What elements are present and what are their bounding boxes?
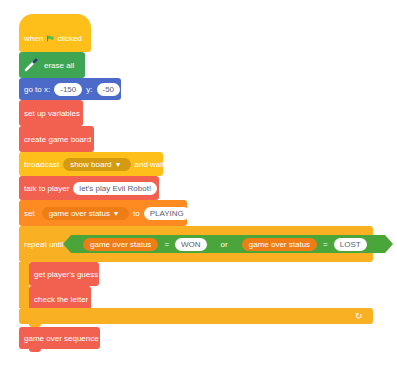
when-label: when [24, 34, 43, 43]
create-game-board-label: create game board [24, 135, 91, 144]
or-operator-block[interactable]: game over status = WON or game over stat… [63, 235, 393, 253]
set-up-variables-label: set up variables [24, 109, 80, 118]
green-flag-icon [47, 34, 53, 43]
chevron-down-icon: ▾ [116, 160, 120, 169]
loop-arrow-icon: ↻ [355, 311, 363, 321]
game-over-status-reporter-left[interactable]: game over status [83, 238, 158, 251]
set-variable-block[interactable]: set game over status▾ to PLAYING [19, 200, 187, 226]
game-over-sequence-label: game over sequence [24, 334, 99, 343]
to-label: to [133, 209, 140, 218]
equals-sign-right: = [323, 240, 328, 249]
repeat-until-arm [19, 262, 29, 308]
talk-to-player-input[interactable]: let's play Evil Robot! [73, 182, 157, 195]
pen-icon [24, 58, 38, 72]
won-input[interactable]: WON [175, 238, 207, 251]
broadcast-label: broadcast [24, 160, 59, 169]
variable-dropdown[interactable]: game over status▾ [42, 207, 129, 220]
set-value-input[interactable]: PLAYING [144, 207, 190, 220]
game-over-status-reporter-right[interactable]: game over status [242, 238, 317, 251]
repeat-until-block[interactable]: repeat until game over status = WON or g… [19, 226, 373, 324]
talk-to-player-label: talk to player [24, 184, 69, 193]
go-to-xy-block[interactable]: go to x: -150 y: -50 [19, 78, 121, 100]
erase-all-block[interactable]: erase all [19, 52, 85, 78]
set-up-variables-block[interactable]: set up variables [19, 100, 83, 126]
equals-operator-left[interactable]: game over status = WON [75, 236, 215, 252]
broadcast-message-value: show board [70, 160, 111, 169]
erase-all-label: erase all [44, 61, 74, 70]
get-players-guess-block[interactable]: get player's guess [29, 262, 99, 286]
lost-input[interactable]: LOST [334, 238, 367, 251]
equals-sign-left: = [164, 240, 169, 249]
when-flag-clicked-block[interactable]: when clicked [19, 14, 91, 52]
set-label: set [24, 209, 35, 218]
variable-name: game over status [49, 209, 110, 218]
create-game-board-block[interactable]: create game board [19, 126, 94, 152]
equals-operator-right[interactable]: game over status = LOST [234, 236, 375, 252]
repeat-until-label: repeat until [24, 240, 64, 249]
talk-to-player-block[interactable]: talk to player let's play Evil Robot! [19, 176, 159, 200]
broadcast-and-wait-block[interactable]: broadcast show board▾ and wait [19, 152, 163, 176]
or-label: or [221, 240, 228, 249]
y-input[interactable]: -50 [97, 83, 121, 96]
and-wait-label: and wait [135, 160, 165, 169]
game-over-sequence-block[interactable]: game over sequence [19, 327, 100, 349]
repeat-until-footer: ↻ [19, 308, 373, 324]
broadcast-message-dropdown[interactable]: show board▾ [63, 158, 130, 171]
x-input[interactable]: -150 [54, 83, 82, 96]
clicked-label: clicked [58, 34, 82, 43]
get-players-guess-label: get player's guess [34, 270, 98, 279]
chevron-down-icon: ▾ [114, 209, 118, 218]
go-to-x-label: go to x: [24, 85, 50, 94]
check-the-letter-label: check the letter [34, 295, 88, 304]
y-label: y: [86, 85, 92, 94]
